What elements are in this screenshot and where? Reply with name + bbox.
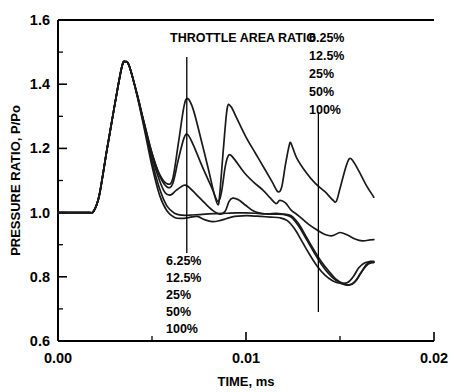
upper-series-label-3: 50% [309, 85, 334, 99]
lower-series-label-2: 25% [166, 288, 191, 302]
x-tick-label: 0.01 [232, 350, 260, 366]
y-tick-label: 0.8 [30, 269, 50, 285]
pressure-ratio-time-chart: 0.60.81.01.21.41.60.000.010.02TIME, msPR… [0, 0, 455, 392]
x-tick-label: 0.02 [420, 350, 448, 366]
y-tick-label: 1.6 [30, 12, 50, 28]
chart-figure: 0.60.81.01.21.41.60.000.010.02TIME, msPR… [0, 0, 455, 392]
y-tick-label: 0.6 [30, 333, 50, 349]
x-tick-label: 0.00 [44, 350, 72, 366]
y-tick-label: 1.2 [30, 140, 50, 156]
chart-labels: 0.60.81.01.21.41.60.000.010.02TIME, msPR… [8, 12, 448, 389]
y-tick-label: 1.0 [30, 205, 50, 221]
lower-series-label-0: 6.25% [166, 254, 201, 268]
upper-series-label-0: 6.25% [309, 31, 344, 45]
y-axis-title: PRESSURE RATIO, P/Po [8, 105, 23, 256]
upper-series-label-1: 12.5% [309, 49, 344, 63]
pointer-lines [187, 57, 319, 312]
upper-series-label-4: 100% [309, 103, 341, 117]
y-tick-label: 1.4 [30, 76, 50, 92]
x-axis-title: TIME, ms [217, 374, 274, 389]
lower-series-label-3: 50% [166, 305, 191, 319]
axes [58, 20, 434, 341]
throttle-area-ratio-label: THROTTLE AREA RATIO [170, 31, 316, 45]
lower-series-label-4: 100% [166, 322, 198, 336]
series-curve-6-25pct [58, 61, 374, 213]
lower-series-label-1: 12.5% [166, 271, 201, 285]
upper-series-label-2: 25% [309, 67, 334, 81]
